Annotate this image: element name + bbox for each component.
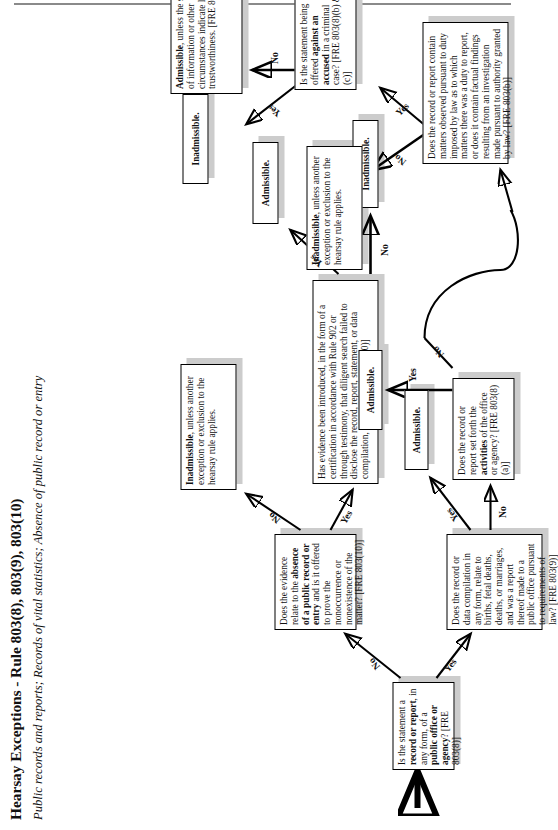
node-start-question[interactable]: Is the statement a record or report, in … [392, 682, 454, 770]
node-duty-question[interactable]: Does the record or report contain matter… [422, 22, 508, 164]
node-activities-question[interactable]: Does the record or report set forth the … [452, 378, 514, 480]
node-out-inadmissible-2[interactable]: Inadmissible. [182, 94, 208, 184]
node-criminal-question[interactable]: Is the statement being offered against a… [294, 0, 356, 90]
edge-label-certification-no: No [378, 244, 389, 256]
node-out-admissible-3[interactable]: Admissible. [358, 350, 382, 430]
node-out-admissible-1[interactable]: Admissible. [252, 142, 278, 224]
edge-q5-to-q6-loop [424, 210, 517, 338]
node-out-admissible-trustworthiness[interactable]: Admissible, unless the sources of inform… [170, 0, 242, 94]
edge-into-q6 [500, 170, 512, 212]
edge-label-vital-no: No [496, 506, 507, 518]
node-vital-statistics-question[interactable]: Does the record or data compilation in a… [446, 534, 542, 630]
node-out-admissible-2[interactable]: Admissible. [404, 390, 428, 470]
edge-q1-yes [436, 634, 470, 678]
node-absence-question[interactable]: Does the evidence relate to the absence … [274, 534, 356, 630]
edge-label-activities-yes: Yes [406, 368, 417, 382]
node-out-inadmissible-other-exception[interactable]: Inadmissible, unless another exception o… [180, 364, 236, 490]
edge-label-criminal-no: No [268, 52, 279, 64]
